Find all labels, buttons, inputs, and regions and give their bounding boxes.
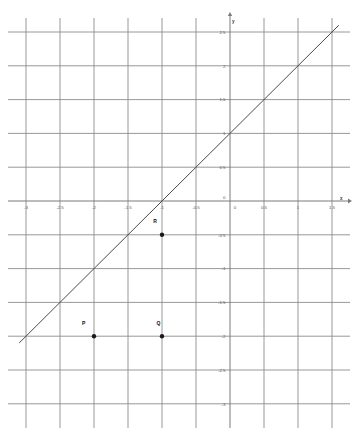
- x-tick-label: -0.5: [192, 205, 200, 210]
- y-tick-label: 0.5: [219, 165, 226, 170]
- x-tick-label: -3: [24, 205, 28, 210]
- y-tick-label: -2: [222, 334, 226, 339]
- x-tick-label: -2.5: [56, 205, 64, 210]
- x-tick-label: -2: [92, 205, 96, 210]
- y-tick-label: 2.5: [219, 30, 226, 35]
- x-axis-label: x: [340, 196, 343, 201]
- y-tick-label: 1.5: [219, 97, 226, 102]
- x-tick-label: -1: [160, 205, 164, 210]
- x-tick-label: -1.5: [124, 205, 132, 210]
- y-axis-label: y: [232, 19, 235, 24]
- cartesian-plot: -3-2.5-2-1.5-1-0.50.511.50 2.521.510.5-0…: [0, 0, 356, 441]
- data-point-marker: [160, 334, 164, 338]
- y-tick-label: -1: [222, 266, 226, 271]
- data-point-label: R: [153, 218, 157, 224]
- y-tick-label: -2.5: [218, 368, 226, 373]
- y-tick-label: -1.5: [218, 300, 226, 305]
- x-tick-label: 1.5: [329, 205, 336, 210]
- x-tick-label: 0.5: [261, 205, 268, 210]
- data-point-label: Q: [157, 320, 161, 326]
- y-tick-label: -0.5: [218, 233, 226, 238]
- chart-screenshot: -3-2.5-2-1.5-1-0.50.511.50 2.521.510.5-0…: [0, 0, 356, 441]
- data-point-marker: [92, 334, 96, 338]
- data-point-marker: [160, 233, 164, 237]
- y-tick-label: -3: [222, 402, 226, 407]
